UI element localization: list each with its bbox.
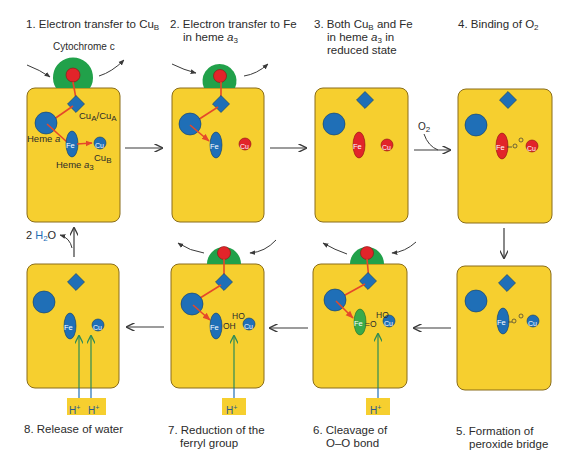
curved-arrow-in-icon: [172, 64, 196, 73]
ho-label: HO: [376, 309, 389, 322]
step-4-title: 4. Binding of O2: [458, 18, 539, 31]
fe-label: Fe: [353, 140, 362, 153]
fe-label: Fe: [496, 141, 505, 154]
cu-label: Cu: [244, 320, 253, 333]
fe-label: Fe: [497, 316, 506, 329]
fe-label: Fe: [66, 139, 75, 152]
step-5-title: 5. Formation of peroxide bridge: [456, 425, 548, 451]
cu-label: Cu: [95, 139, 104, 152]
oh-label: OH: [223, 320, 236, 333]
cu-label: Cu: [382, 141, 391, 154]
ferryl-oxygen-label: =O: [365, 318, 377, 331]
heme-a-icon: [323, 113, 345, 135]
curved-arrow-out-icon: [244, 64, 268, 76]
cu-label: Cu: [240, 140, 249, 153]
step-6-title: 6. Cleavage of O–O bond: [313, 424, 387, 450]
step-1-title: 1. Electron transfer to CuB: [26, 18, 159, 31]
heme-a-icon: [465, 114, 487, 136]
heme-a-icon: [465, 290, 487, 312]
step-7-title: 7. Reduction of the ferryl group: [168, 424, 265, 450]
fe-label: Fe: [354, 317, 363, 330]
curved-arrow-out-icon: [99, 60, 124, 76]
proton-label: H+: [370, 401, 381, 417]
heme-a3-label: Heme a3: [56, 158, 94, 171]
curved-arrow-in-icon: [27, 65, 50, 77]
proton-label: H+: [69, 401, 80, 417]
o2-label: O2: [418, 120, 430, 133]
step-2-title: 2. Electron transfer to Fe in heme a3: [170, 18, 297, 44]
fe-label: Fe: [64, 321, 73, 334]
cytochrome-c-icon: [203, 64, 237, 88]
step-3-title: 3. Both CuB and Fe in heme a3 in reduced…: [314, 18, 413, 57]
cycle-diagram: [0, 0, 577, 471]
cytochrome-c-label: Cytochrome c: [53, 40, 115, 53]
curved-arrow-in-icon: [392, 242, 416, 253]
cu-label: Cu: [527, 142, 536, 155]
curved-arrow-out-icon: [178, 243, 204, 253]
o2-incoming-arrow: [424, 134, 438, 150]
cua-label: CuA/CuA: [79, 109, 117, 122]
proton-label: H+: [88, 401, 99, 417]
fe-label: Fe: [210, 140, 219, 153]
step-8-title: 8. Release of water: [24, 423, 123, 436]
cub-label: CuB: [94, 151, 112, 164]
water-product-label: 2 H2O: [26, 229, 56, 242]
fe-label: Fe: [210, 321, 219, 334]
heme-a-label: Heme a: [27, 132, 60, 145]
cu-label: Cu: [528, 317, 537, 330]
cu-label: Cu: [93, 321, 102, 334]
heme-a-icon: [33, 291, 55, 313]
proton-label: H+: [226, 401, 237, 417]
curved-arrow-out-icon: [323, 243, 347, 254]
curved-arrow-in-icon: [250, 240, 276, 253]
water-release-arrow: [60, 235, 72, 248]
